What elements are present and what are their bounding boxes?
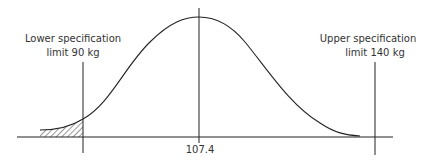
upper-limit-label-line2: limit 140 kg bbox=[345, 47, 405, 58]
upper-limit-label-line1: Upper specification bbox=[320, 33, 417, 44]
normal-distribution-diagram: Lower specification limit 90 kg Upper sp… bbox=[0, 0, 427, 163]
mean-value-label: 107.4 bbox=[186, 144, 215, 155]
lower-limit-label-line1: Lower specification bbox=[25, 33, 121, 44]
lower-limit-label-line2: limit 90 kg bbox=[46, 47, 99, 58]
